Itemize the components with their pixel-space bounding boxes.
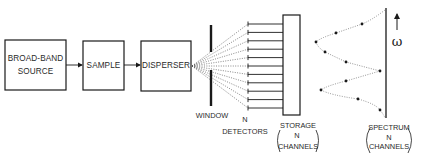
dispersed-rays [192, 24, 248, 108]
window-label: WINDOW [196, 111, 228, 120]
storage-block [283, 15, 300, 115]
detectors-label: DETECTORS [222, 127, 268, 136]
source-label-line1: BROAD-BAND [8, 54, 64, 63]
spectrum-label-n: N [386, 133, 391, 142]
spectrometer-diagram: BROAD-BAND SOURCE SAMPLE DISPERSER WINDO… [0, 0, 425, 157]
disperser-label: DISPERSER [142, 61, 190, 70]
spectrum-curve [316, 10, 385, 118]
detectors-label-n: N [242, 115, 247, 124]
sample-label: SAMPLE [87, 61, 121, 70]
sample-block: SAMPLE [83, 41, 124, 90]
detector-array [248, 22, 283, 111]
broad-band-source-block: BROAD-BAND SOURCE [5, 40, 66, 90]
omega-symbol: ω [392, 34, 403, 49]
spectrum-label: SPECTRUM [368, 123, 409, 132]
storage-label-channels: CHANNELS [278, 142, 318, 151]
storage-label-n: N [294, 131, 299, 140]
disperser-block: DISPERSER [141, 41, 191, 91]
source-label-line2: SOURCE [18, 67, 54, 76]
spectrum-points [315, 23, 382, 112]
spectrum-label-channels: CHANNELS [369, 142, 409, 151]
storage-label: STORAGE [280, 121, 316, 130]
